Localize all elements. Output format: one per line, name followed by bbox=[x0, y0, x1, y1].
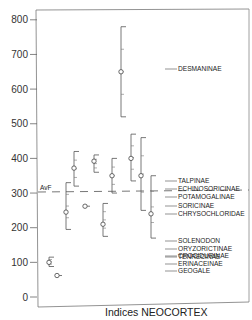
avf-label: AvF bbox=[40, 184, 51, 191]
series-solenodon bbox=[64, 183, 71, 230]
mean-marker bbox=[47, 260, 51, 264]
series-soricinae bbox=[110, 158, 117, 193]
svg-text:TALPINAE: TALPINAE bbox=[178, 177, 210, 184]
y-tick-label: 600 bbox=[11, 84, 28, 95]
y-tick-label: 800 bbox=[11, 14, 28, 25]
group-labels: DESMANINAETALPINAEECHINOSORICINAEPOTAMOG… bbox=[165, 65, 245, 274]
label-potamogalinae: POTAMOGALINAE bbox=[165, 193, 235, 200]
mean-marker bbox=[129, 156, 133, 160]
label-geogale: GEOGALE bbox=[165, 267, 211, 274]
svg-text:GEOGALE: GEOGALE bbox=[178, 267, 211, 274]
mean-marker bbox=[55, 273, 59, 277]
mean-marker bbox=[101, 222, 105, 226]
svg-text:ECHINOSORICINAE: ECHINOSORICINAE bbox=[178, 185, 241, 192]
svg-text:POTAMOGALINAE: POTAMOGALINAE bbox=[178, 193, 235, 200]
svg-text:SOLENODON: SOLENODON bbox=[178, 237, 220, 244]
series-potamogalinae bbox=[92, 155, 99, 172]
mean-marker bbox=[110, 174, 114, 178]
y-tick-label: 500 bbox=[11, 118, 28, 129]
mean-marker bbox=[149, 212, 153, 216]
y-axis: 0100200300400500600700800 bbox=[11, 14, 37, 302]
y-tick-label: 100 bbox=[11, 257, 28, 268]
y-tick-label: 200 bbox=[11, 222, 28, 233]
series-chrysochloridae bbox=[149, 176, 156, 238]
svg-text:DESMANINAE: DESMANINAE bbox=[178, 65, 222, 72]
y-tick-label: 400 bbox=[11, 153, 28, 164]
y-tick-label: 0 bbox=[22, 292, 28, 303]
series-talpinae bbox=[139, 138, 146, 211]
label-desmaninae: DESMANINAE bbox=[165, 65, 222, 72]
mean-marker bbox=[72, 166, 76, 170]
label-talpinae: TALPINAE bbox=[165, 177, 210, 184]
label-oryzorictinae: ORYZORICTINAE bbox=[165, 245, 233, 252]
series-echinosoricinae bbox=[129, 134, 136, 181]
series-erinaceinae bbox=[101, 203, 108, 236]
label-erinaceinae: ERINACEINAE bbox=[165, 260, 223, 267]
mean-marker bbox=[139, 174, 143, 178]
series-desmaninae bbox=[119, 27, 126, 117]
y-tick-label: 300 bbox=[11, 188, 28, 199]
series-geogale bbox=[55, 273, 62, 277]
label-echinosoricinae: ECHINOSORICINAE bbox=[165, 185, 241, 192]
mean-marker bbox=[64, 210, 68, 214]
svg-text:SORICINAE: SORICINAE bbox=[178, 202, 215, 209]
label-soricinae: SORICINAE bbox=[165, 202, 215, 209]
svg-text:CHRYSOCHLORIDAE: CHRYSOCHLORIDAE bbox=[178, 210, 245, 217]
svg-text:TENRECINAE: TENRECINAE bbox=[178, 253, 221, 260]
series-oryzorictinae bbox=[72, 151, 79, 186]
mean-marker bbox=[119, 70, 123, 74]
label-chrysochloridae: CHRYSOCHLORIDAE bbox=[165, 210, 245, 217]
mean-marker bbox=[92, 159, 96, 163]
series-tenrecinae bbox=[47, 257, 54, 266]
neocortex-index-chart: 0100200300400500600700800 AvF DESMANINAE… bbox=[0, 0, 252, 320]
series-crocidurinae bbox=[83, 204, 90, 208]
y-tick-label: 700 bbox=[11, 49, 28, 60]
x-axis-title: Indices NEOCORTEX bbox=[105, 306, 208, 318]
label-tenrecinae: TENRECINAE bbox=[165, 253, 221, 260]
svg-text:ERINACEINAE: ERINACEINAE bbox=[178, 260, 223, 267]
data-series bbox=[47, 27, 156, 278]
label-solenodon: SOLENODON bbox=[165, 237, 220, 244]
mean-marker bbox=[83, 204, 87, 208]
svg-text:ORYZORICTINAE: ORYZORICTINAE bbox=[178, 245, 233, 252]
